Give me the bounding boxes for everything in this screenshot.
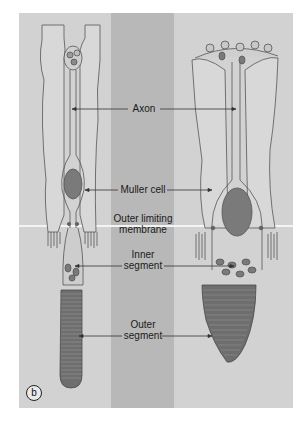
label-inner-segment-1: Inner [120,249,166,260]
panel-label-badge: b [26,385,42,401]
label-outer-limiting-membrane-1: Outer limiting [106,213,180,224]
cone-cell [192,41,278,362]
rod-cell [40,25,100,388]
label-outer-segment-2: segment [120,330,166,341]
label-outer-limiting-membrane-2: membrane [106,224,180,235]
diagram-art [0,0,303,423]
label-inner-segment-2: segment [120,260,166,271]
label-outer-segment-1: Outer [120,319,166,330]
label-muller-cell: Muller cell [116,184,170,195]
label-axon: Axon [128,103,160,114]
